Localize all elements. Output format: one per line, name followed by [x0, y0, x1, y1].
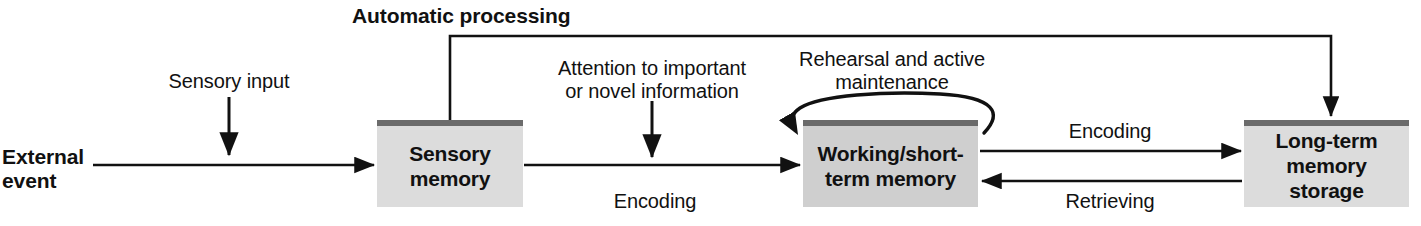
- node-working-short-term-memory-label: Working/short- term memory: [811, 142, 969, 192]
- diagram-connectors: [0, 0, 1421, 226]
- label-rehearsal-and-active-maintenance: Rehearsal and active maintenance: [784, 48, 1000, 94]
- label-retrieving-longterm-to-working: Retrieving: [1050, 190, 1170, 213]
- node-long-term-memory-storage: Long-term memory storage: [1244, 120, 1409, 207]
- label-external-event: External event: [2, 145, 92, 193]
- memory-model-diagram: Sensory memory Working/short- term memor…: [0, 0, 1421, 226]
- label-sensory-input: Sensory input: [158, 70, 300, 93]
- label-automatic-processing: Automatic processing: [352, 4, 582, 28]
- node-sensory-memory: Sensory memory: [377, 120, 523, 207]
- node-long-term-memory-storage-label: Long-term memory storage: [1244, 129, 1409, 203]
- node-working-short-term-memory: Working/short- term memory: [803, 120, 978, 207]
- label-encoding-sensory-to-working: Encoding: [600, 190, 710, 213]
- label-encoding-working-to-longterm: Encoding: [1055, 120, 1165, 143]
- node-sensory-memory-label: Sensory memory: [403, 142, 496, 192]
- label-attention-to-important-or-novel-information: Attention to important or novel informat…: [532, 57, 772, 103]
